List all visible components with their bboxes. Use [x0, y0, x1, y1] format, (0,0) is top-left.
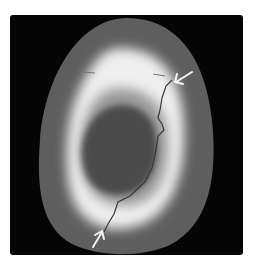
scan-image [0, 0, 253, 262]
